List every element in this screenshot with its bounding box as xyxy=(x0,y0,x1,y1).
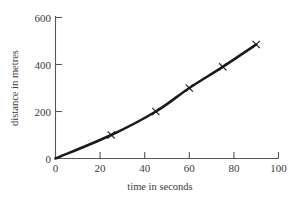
chart-figure: 600 400 200 0 0 20 40 60 80 100 time in … xyxy=(0,0,301,201)
data-point-marker xyxy=(219,63,226,70)
x-tick-label-60: 60 xyxy=(184,162,196,174)
x-tick-label-40: 40 xyxy=(139,162,151,174)
x-axis-title: time in seconds xyxy=(127,181,192,192)
y-tick-label-200: 200 xyxy=(35,106,52,118)
data-point-marker xyxy=(186,84,193,91)
chart-canvas: 600 400 200 0 0 20 40 60 80 100 time in … xyxy=(0,0,301,201)
x-tick-label-20: 20 xyxy=(95,162,107,174)
data-marker-group xyxy=(108,41,260,139)
data-point-marker xyxy=(253,41,260,48)
y-axis-title: distance in metres xyxy=(9,50,20,126)
data-series-line xyxy=(56,45,257,159)
y-tick-label-0: 0 xyxy=(46,153,52,165)
y-tick-label-400: 400 xyxy=(35,59,52,71)
y-tick-label-600: 600 xyxy=(35,12,52,24)
x-tick-label-100: 100 xyxy=(270,162,287,174)
x-tick-label-0: 0 xyxy=(53,162,59,174)
x-tick-label-80: 80 xyxy=(228,162,240,174)
